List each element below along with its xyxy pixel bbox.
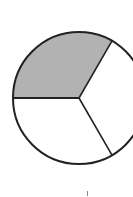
- fraction-circle-diagram: [0, 0, 133, 197]
- divider-lower-right: [79, 98, 112, 155]
- footer-tick-mark: [87, 191, 88, 196]
